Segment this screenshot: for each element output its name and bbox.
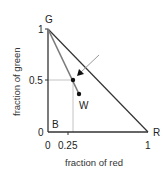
y-tick-label-0.5: 0.5: [29, 75, 43, 86]
x-axis-title: fraction of red: [65, 157, 123, 168]
hypotenuse-g-r: [48, 29, 148, 132]
x-tick-label-0: 0: [45, 140, 51, 151]
y-tick-label-0: 0: [38, 127, 44, 138]
point-label-w: W: [79, 100, 89, 111]
vertex-label-g: G: [45, 14, 53, 25]
point-w: [77, 92, 81, 96]
chromaticity-triangle-diagram: G B R W 1 0.5 0 0 0.25 1 fraction of red…: [0, 0, 167, 174]
x-tick-label-1: 1: [145, 140, 151, 151]
vertex-label-b: B: [52, 119, 59, 130]
y-axis-title: fraction of green: [11, 47, 22, 116]
y-tick-label-1: 1: [38, 24, 44, 35]
line-g-to-w: [48, 29, 79, 94]
point-intersection: [71, 78, 75, 82]
arrow-shaft: [80, 55, 99, 73]
x-tick-label-0.25: 0.25: [58, 140, 78, 151]
vertex-label-r: R: [153, 127, 160, 138]
